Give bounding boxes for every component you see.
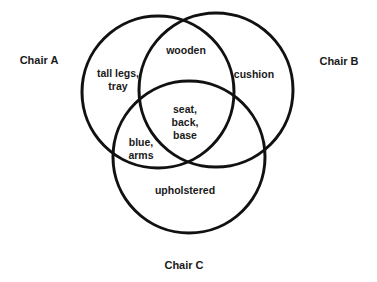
region-a-and-b: wooden: [166, 44, 206, 57]
region-b-only: cushion: [234, 68, 274, 81]
region-a-only: tall legs, tray: [97, 67, 139, 93]
set-label-chair-c: Chair C: [164, 259, 203, 271]
circle-chair-b: [139, 13, 293, 167]
region-c-only: upholstered: [155, 184, 215, 197]
set-label-chair-b: Chair B: [319, 55, 358, 67]
region-a-b-c: seat, back, base: [172, 103, 199, 142]
region-a-and-c: blue, arms: [128, 136, 153, 162]
set-label-chair-a: Chair A: [20, 54, 59, 66]
